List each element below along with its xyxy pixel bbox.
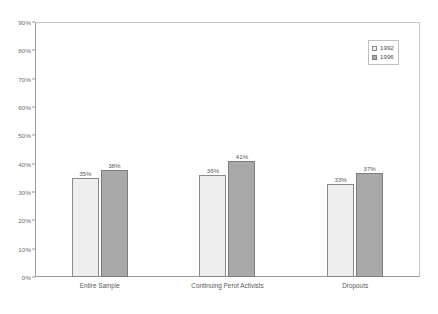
bar-value-label: 35%	[79, 170, 91, 177]
y-axis-tick-mark	[32, 135, 35, 136]
legend-item[interactable]: 1992	[372, 44, 394, 52]
y-axis-tick-label: 20%	[18, 217, 31, 224]
y-axis-tick-mark	[32, 50, 35, 51]
legend-item[interactable]: 1996	[372, 53, 394, 61]
bar-value-label: 41%	[236, 153, 248, 160]
y-axis-tick-label: 80%	[18, 47, 31, 54]
bars-layer: 35%38%36%41%33%37%	[36, 23, 419, 277]
bar-value-label: 36%	[207, 167, 219, 174]
y-axis-tick-label: 90%	[18, 19, 31, 26]
y-axis-tick-mark	[32, 107, 35, 108]
legend-swatch-1992	[372, 46, 377, 51]
y-axis-tick-mark	[32, 220, 35, 221]
y-axis: 0%10%20%30%40%50%60%70%80%90%	[0, 22, 35, 277]
y-axis-tick-label: 70%	[18, 75, 31, 82]
bar-1992[interactable]: 36%	[199, 175, 226, 277]
legend-label: 1996	[380, 53, 394, 61]
y-axis-tick-mark	[32, 192, 35, 193]
legend-swatch-1996	[372, 55, 377, 60]
bar-value-label: 33%	[334, 176, 346, 183]
bar-group: 33%37%	[291, 23, 419, 277]
bar-1992[interactable]: 35%	[72, 178, 99, 277]
category-label: Entire Sample	[80, 282, 120, 289]
bar-value-label: 38%	[108, 162, 120, 169]
bar-value-label: 37%	[363, 165, 375, 172]
y-axis-tick-mark	[32, 248, 35, 249]
legend-label: 1992	[380, 44, 394, 52]
bar-group: 35%38%	[36, 23, 164, 277]
y-axis-tick-mark	[32, 163, 35, 164]
bar-1996[interactable]: 37%	[356, 173, 383, 277]
bar-1996[interactable]: 41%	[228, 161, 255, 277]
bar-group: 36%41%	[164, 23, 292, 277]
y-axis-tick-mark	[32, 78, 35, 79]
y-axis-tick-mark	[32, 22, 35, 23]
y-axis-tick-label: 60%	[18, 104, 31, 111]
y-axis-tick-mark	[32, 277, 35, 278]
category-label: Continuing Perot Activists	[191, 282, 263, 289]
y-axis-tick-label: 30%	[18, 189, 31, 196]
category-label: Dropouts	[342, 282, 368, 289]
bar-1992[interactable]: 33%	[327, 184, 354, 277]
bar-1996[interactable]: 38%	[101, 170, 128, 277]
legend: 19921996	[368, 40, 399, 65]
y-axis-tick-label: 50%	[18, 132, 31, 139]
y-axis-tick-label: 40%	[18, 160, 31, 167]
bar-chart: 0%10%20%30%40%50%60%70%80%90% 35%38%36%4…	[0, 0, 438, 314]
y-axis-tick-label: 0%	[22, 274, 31, 281]
y-axis-tick-label: 10%	[18, 245, 31, 252]
category-axis: Entire SampleContinuing Perot ActivistsD…	[36, 282, 419, 296]
